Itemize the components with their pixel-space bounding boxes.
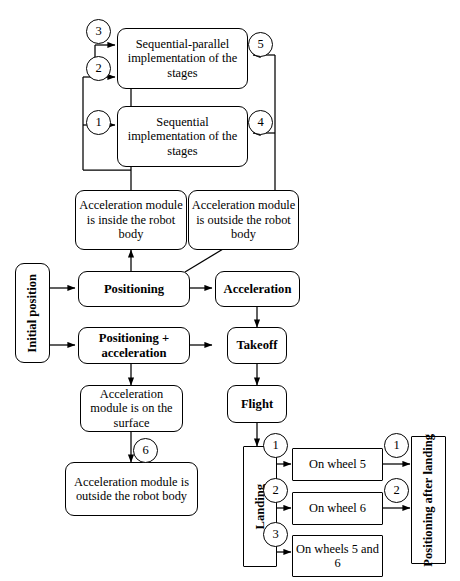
node-sequential-parallel[interactable]: Sequential-parallel implementation of th… <box>117 28 248 89</box>
badge-4: 4 <box>248 110 273 135</box>
node-positioning-plus-acceleration[interactable]: Positioning + acceleration <box>78 327 190 364</box>
node-on-wheels-5-and-6[interactable]: On wheels 5 and 6 <box>292 535 383 577</box>
node-landing[interactable]: Landing <box>243 446 277 567</box>
node-accel-module-on-surface-label: Acceleration module is on the surface <box>81 387 182 430</box>
node-flight[interactable]: Flight <box>227 385 287 423</box>
node-initial-position-label: Initial position <box>25 274 40 353</box>
badge-1-label: 1 <box>95 115 101 130</box>
node-on-wheel-5[interactable]: On wheel 5 <box>292 448 383 481</box>
node-takeoff[interactable]: Takeoff <box>227 327 287 364</box>
node-acceleration-label: Acceleration <box>224 282 292 297</box>
badge-landing-3-label: 3 <box>272 527 278 542</box>
node-acceleration[interactable]: Acceleration <box>215 271 300 307</box>
node-positioning-after-landing[interactable]: Positioning after landing <box>411 436 446 564</box>
node-sequential-parallel-label: Sequential-parallel implementation of th… <box>118 37 247 80</box>
badge-5-label: 5 <box>257 37 263 52</box>
badge-landing-1: 1 <box>263 433 288 458</box>
badge-5: 5 <box>248 32 273 57</box>
node-accel-module-outside-top-label: Acceleration module is outside the robot… <box>189 198 298 241</box>
badge-landing-2: 2 <box>263 478 288 503</box>
node-sequential[interactable]: Sequential implementation of the stages <box>117 106 248 167</box>
badge-4-label: 4 <box>257 115 263 130</box>
badge-2: 2 <box>86 56 111 81</box>
node-takeoff-label: Takeoff <box>237 338 278 353</box>
node-accel-module-outside-top[interactable]: Acceleration module is outside the robot… <box>188 190 299 250</box>
node-accel-module-inside[interactable]: Acceleration module is inside the robot … <box>75 190 187 250</box>
badge-2-label: 2 <box>95 61 101 76</box>
node-accel-module-outside-bottom[interactable]: Acceleration module is outside the robot… <box>65 462 198 516</box>
badge-out-2-label: 2 <box>393 483 399 498</box>
badge-3-label: 3 <box>95 24 101 39</box>
badge-1: 1 <box>86 110 111 135</box>
node-accel-module-on-surface[interactable]: Acceleration module is on the surface <box>80 385 183 432</box>
badge-landing-3: 3 <box>263 522 288 547</box>
node-positioning-after-landing-label: Positioning after landing <box>421 434 436 567</box>
badge-6: 6 <box>133 438 158 463</box>
node-positioning[interactable]: Positioning <box>78 271 190 307</box>
badge-out-1-label: 1 <box>393 438 399 453</box>
node-on-wheel-6[interactable]: On wheel 6 <box>292 492 383 525</box>
node-on-wheel-6-label: On wheel 6 <box>309 501 366 515</box>
badge-3: 3 <box>86 19 111 44</box>
badge-landing-2-label: 2 <box>272 483 278 498</box>
node-sequential-label: Sequential implementation of the stages <box>118 115 247 158</box>
node-initial-position[interactable]: Initial position <box>15 263 50 363</box>
badge-landing-1-label: 1 <box>272 438 278 453</box>
badge-6-label: 6 <box>142 443 148 458</box>
badge-out-1: 1 <box>384 433 409 458</box>
node-positioning-label: Positioning <box>104 282 164 297</box>
node-positioning-plus-acceleration-label: Positioning + acceleration <box>79 331 189 360</box>
node-accel-module-inside-label: Acceleration module is inside the robot … <box>76 198 186 241</box>
flowchart-canvas: Sequential-parallel implementation of th… <box>0 0 460 581</box>
node-on-wheel-5-label: On wheel 5 <box>309 457 366 471</box>
node-accel-module-outside-bottom-label: Acceleration module is outside the robot… <box>66 475 197 504</box>
badge-out-2: 2 <box>384 478 409 503</box>
node-flight-label: Flight <box>241 397 273 412</box>
node-on-wheels-5-and-6-label: On wheels 5 and 6 <box>293 542 382 571</box>
